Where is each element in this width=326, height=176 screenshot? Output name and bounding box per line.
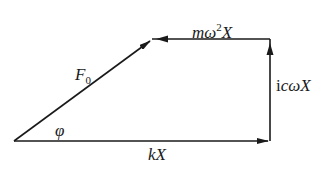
label-phi: φ bbox=[55, 122, 64, 139]
label-F0: F0 bbox=[75, 66, 91, 86]
label-mw2X: mω2X bbox=[192, 22, 232, 41]
vector-F0 bbox=[14, 41, 150, 141]
arrowhead-mw2X bbox=[156, 36, 168, 43]
arrowhead-icwX bbox=[267, 43, 274, 55]
label-icwX: icωX bbox=[276, 77, 311, 94]
label-kX: kX bbox=[148, 146, 166, 163]
